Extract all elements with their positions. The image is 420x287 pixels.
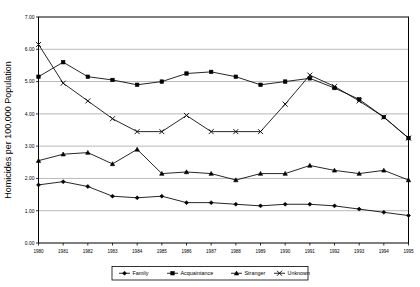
chart-container: 0.001.002.003.004.005.006.007.00 1980198…	[0, 0, 420, 287]
marker-square	[160, 80, 164, 84]
y-axis-title: Homicides per 100,000 Population	[3, 61, 13, 199]
y-tick-label: 1.00	[25, 208, 35, 214]
y-tick-label: 2.00	[25, 175, 35, 181]
x-tick-label: 1982	[83, 249, 94, 254]
y-tick-label: 3.00	[25, 143, 35, 149]
marker-square	[37, 75, 41, 79]
marker-square	[171, 272, 175, 276]
legend-item-label: Unknown	[288, 270, 310, 276]
x-tick-label: 1990	[280, 249, 291, 254]
y-tick-label: 7.00	[25, 14, 35, 20]
x-tick-label: 1983	[107, 249, 118, 254]
x-tick-label: 1995	[403, 249, 414, 254]
marker-square	[259, 83, 263, 87]
marker-square	[86, 75, 90, 79]
x-tick-label: 1981	[58, 249, 69, 254]
legend-item-label: Acquaintance	[181, 270, 214, 276]
marker-square	[185, 72, 189, 76]
y-tick-label: 5.00	[25, 78, 35, 84]
legend-item-label: Stranger	[245, 270, 266, 276]
chart-legend: FamilyAcquaintanceStrangerUnknown	[112, 267, 310, 281]
marker-square	[209, 70, 213, 74]
y-tick-label: 4.00	[25, 111, 35, 117]
legend-item-label: Family	[133, 270, 149, 276]
x-tick-label: 1985	[157, 249, 168, 254]
x-tick-label: 1994	[379, 249, 390, 254]
y-tick-label: 0.00	[25, 240, 35, 246]
y-tick-label: 6.00	[25, 46, 35, 52]
x-tick-label: 1980	[33, 249, 44, 254]
marker-square	[283, 80, 287, 84]
marker-square	[111, 78, 115, 82]
marker-square	[234, 75, 238, 79]
x-tick-label: 1984	[132, 249, 143, 254]
marker-square	[61, 60, 65, 64]
x-tick-label: 1987	[206, 249, 217, 254]
marker-square	[135, 83, 139, 87]
x-tick-label: 1993	[354, 249, 365, 254]
x-tick-label: 1988	[231, 249, 242, 254]
x-tick-label: 1991	[305, 249, 316, 254]
x-tick-label: 1989	[255, 249, 266, 254]
homicide-rate-line-chart: 0.001.002.003.004.005.006.007.00 1980198…	[0, 0, 420, 287]
x-tick-label: 1992	[329, 249, 340, 254]
x-tick-label: 1986	[181, 249, 192, 254]
